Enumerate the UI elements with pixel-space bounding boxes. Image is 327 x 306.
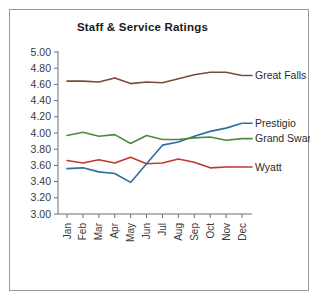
x-axis-tick-label: Dec bbox=[237, 223, 248, 241]
y-axis-tick-label: 4.00 bbox=[31, 127, 52, 139]
y-axis-tick-label: 4.20 bbox=[31, 110, 52, 122]
x-axis-tick-label: Sep bbox=[189, 223, 200, 241]
series-label: Great Falls bbox=[255, 69, 306, 81]
series-label: Grand Swan bbox=[255, 132, 310, 144]
y-axis-tick-label: 4.40 bbox=[31, 94, 52, 106]
series-label: Wyatt bbox=[255, 161, 282, 173]
y-axis-tick-label: 5.00 bbox=[31, 46, 52, 58]
line-chart: 3.003.203.403.603.804.004.204.404.604.80… bbox=[10, 10, 310, 292]
x-axis-tick-label: Oct bbox=[205, 223, 216, 239]
y-axis-tick-label: 3.80 bbox=[31, 143, 52, 155]
x-axis-tick-label: Apr bbox=[109, 222, 120, 238]
x-axis-tick-label: Feb bbox=[77, 223, 88, 241]
x-axis-tick-label: Jun bbox=[141, 223, 152, 239]
series-lines bbox=[67, 72, 242, 182]
x-axis-tick-label: Mar bbox=[93, 222, 104, 240]
x-axis-tick-label: Aug bbox=[173, 223, 184, 241]
y-axis-tick-label: 4.80 bbox=[31, 62, 52, 74]
y-axis: 3.003.203.403.603.804.004.204.404.604.80… bbox=[31, 46, 58, 220]
x-axis-tick-label: Nov bbox=[221, 223, 232, 241]
series-line bbox=[67, 72, 242, 83]
y-axis-tick-label: 4.60 bbox=[31, 78, 52, 90]
y-axis-tick-label: 3.40 bbox=[31, 175, 52, 187]
y-axis-tick-label: 3.20 bbox=[31, 191, 52, 203]
series-line bbox=[67, 123, 242, 182]
series-label: Prestigio bbox=[255, 117, 296, 129]
y-axis-tick-label: 3.60 bbox=[31, 159, 52, 171]
x-axis-tick-label: Jan bbox=[62, 223, 73, 239]
series-line bbox=[67, 132, 242, 143]
x-axis: JanFebMarAprMayJunJulAugSepOctNovDec bbox=[58, 214, 252, 242]
y-axis-tick-label: 3.00 bbox=[31, 208, 52, 220]
plot-area: 3.003.203.403.603.804.004.204.404.604.80… bbox=[10, 10, 327, 306]
series-line bbox=[67, 157, 242, 168]
chart-panel: Staff & Service Ratings 3.003.203.403.60… bbox=[9, 9, 309, 291]
x-axis-tick-label: Jul bbox=[157, 223, 168, 236]
x-axis-tick-label: May bbox=[125, 223, 136, 242]
series-labels: Great FallsPrestigioGrand SwanWyatt bbox=[243, 69, 310, 173]
